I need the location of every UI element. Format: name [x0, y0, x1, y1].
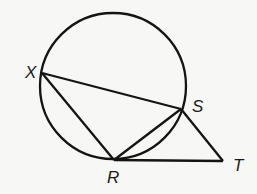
segment-xr [42, 73, 114, 160]
label-s: S [192, 97, 204, 116]
segment-xs [42, 73, 181, 109]
label-x: X [24, 63, 37, 82]
label-r: R [107, 168, 119, 187]
segment-rt [114, 160, 223, 161]
segment-st [181, 109, 223, 161]
circle [40, 13, 186, 159]
segment-rs [114, 109, 181, 160]
label-t: T [233, 156, 245, 175]
geometry-diagram: X S R T [0, 0, 257, 194]
